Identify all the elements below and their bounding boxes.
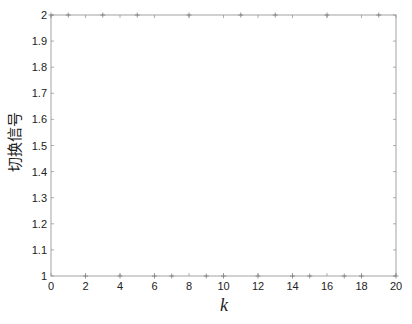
y-tick-label: 1.9 — [32, 35, 47, 47]
y-tick-label: 1.3 — [32, 192, 47, 204]
y-tick-label: 1.8 — [32, 61, 47, 73]
x-tick-label: 6 — [151, 280, 157, 292]
y-tick-label: 1.4 — [32, 166, 47, 178]
chart: 02468101214161820 11.11.21.31.41.51.61.7… — [0, 0, 412, 324]
axes-box — [51, 15, 396, 276]
x-tick-label: 10 — [217, 280, 229, 292]
x-tick-label: 12 — [252, 280, 264, 292]
y-tick-label: 1.2 — [32, 218, 47, 230]
x-axis-label: k — [220, 295, 229, 315]
y-axis-ticks: 11.11.21.31.41.51.61.71.81.92 — [32, 9, 396, 282]
y-tick-label: 1 — [41, 270, 47, 282]
axes — [51, 15, 396, 276]
x-axis-ticks: 02468101214161820 — [48, 15, 402, 292]
x-tick-label: 20 — [390, 280, 402, 292]
y-axis-label: 切换信号 — [6, 112, 24, 172]
x-tick-label: 16 — [321, 280, 333, 292]
y-tick-label: 1.7 — [32, 87, 47, 99]
x-tick-label: 4 — [117, 280, 123, 292]
y-tick-label: 1.6 — [32, 113, 47, 125]
x-tick-label: 0 — [48, 280, 54, 292]
y-tick-label: 1.5 — [32, 140, 47, 152]
data-markers — [49, 13, 399, 279]
x-tick-label: 2 — [82, 280, 88, 292]
x-tick-label: 18 — [355, 280, 367, 292]
x-tick-label: 8 — [186, 280, 192, 292]
y-tick-label: 1.1 — [32, 244, 47, 256]
x-tick-label: 14 — [286, 280, 298, 292]
y-tick-label: 2 — [41, 9, 47, 21]
